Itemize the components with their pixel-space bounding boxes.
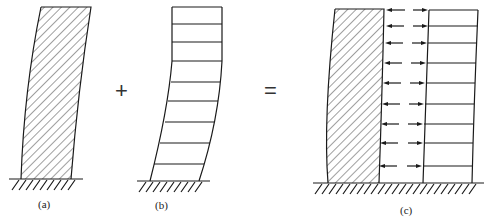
- ground-b: [137, 181, 210, 192]
- plus-operator: +: [115, 78, 128, 103]
- label-c: (c): [400, 204, 413, 217]
- ground-a: [9, 179, 83, 190]
- frame-shear-wall-diagram: (a) + (b) =: [0, 0, 489, 222]
- interaction-force-arrows: [379, 8, 428, 168]
- ground-c: [313, 183, 484, 194]
- panel-b-frame: (b): [137, 7, 222, 212]
- panel-a-shear-wall: (a): [0, 0, 489, 222]
- equals-operator: =: [264, 78, 277, 103]
- label-a: (a): [38, 198, 51, 211]
- label-b: (b): [155, 199, 168, 212]
